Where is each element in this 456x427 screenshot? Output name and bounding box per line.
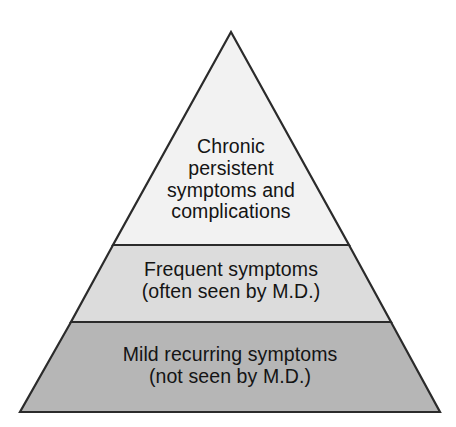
pyramid-tier-middle-shape — [71, 245, 391, 322]
pyramid-tier-bottom-shape — [20, 322, 440, 412]
pyramid-diagram: Chronic persistent symptoms and complica… — [0, 0, 456, 427]
pyramid-shapes — [0, 0, 456, 427]
pyramid-tier-top-shape — [113, 32, 349, 245]
